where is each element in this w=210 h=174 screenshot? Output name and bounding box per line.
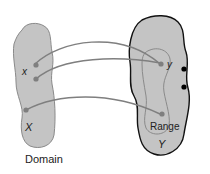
domain-caption: Domain bbox=[25, 153, 63, 165]
codomain-set-label: Y bbox=[158, 138, 166, 150]
function-mapping-diagram: x X Domain y Range Y bbox=[0, 0, 210, 174]
domain-point-label: x bbox=[21, 66, 28, 77]
codomain-point-outside-2 bbox=[181, 84, 186, 89]
domain-point-x3 bbox=[23, 107, 28, 112]
codomain-point-label: y bbox=[166, 59, 173, 70]
codomain-point-outside-1 bbox=[181, 66, 186, 71]
range-point-2 bbox=[159, 111, 164, 116]
range-label: Range bbox=[150, 121, 180, 132]
domain-set-label: X bbox=[24, 121, 33, 133]
domain-set-shape bbox=[13, 23, 55, 147]
range-point-y bbox=[158, 61, 163, 66]
domain-point-x2 bbox=[33, 76, 38, 81]
domain-point-x1 bbox=[33, 62, 38, 67]
